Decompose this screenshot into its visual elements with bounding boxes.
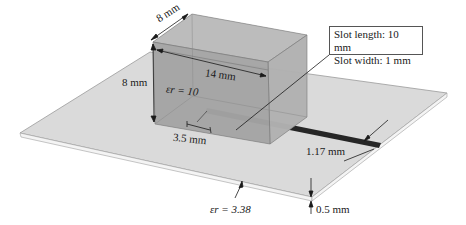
block-depth-label: 8 mm [154, 0, 182, 24]
slot-length-text: Slot length: 10 mm [334, 28, 418, 54]
block-height-label: 8 mm [122, 76, 148, 88]
substrate-permittivity-label: εr = 3.38 [210, 203, 251, 215]
feedline-width-label: 1.17 mm [306, 145, 346, 157]
slot-callout: Slot length: 10 mm Slot width: 1 mm [329, 26, 423, 55]
substrate-thickness-label: 0.5 mm [316, 203, 350, 215]
slot-width-text: Slot width: 1 mm [334, 54, 418, 67]
